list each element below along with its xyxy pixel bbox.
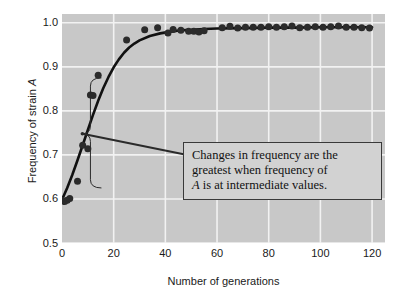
chart-canvas xyxy=(62,14,385,243)
x-tick-label: 40 xyxy=(145,247,185,259)
y-axis-title-italic: A xyxy=(26,79,38,86)
annotation-line-3: A is at intermediate values. xyxy=(192,178,374,193)
plot-area xyxy=(62,14,385,243)
x-tick-label: 60 xyxy=(197,247,237,259)
x-tick-label: 120 xyxy=(352,247,392,259)
y-axis-title-text: Frequency of strain xyxy=(26,86,38,183)
annotation-textbox: Changes in frequency are the greatest wh… xyxy=(183,142,382,200)
x-tick-label: 20 xyxy=(94,247,134,259)
x-axis-title-text: Number of generations xyxy=(168,275,280,287)
chart-figure: 0.50.60.70.80.91.0 Number of generations… xyxy=(0,0,402,302)
x-tick-label: 0 xyxy=(42,247,82,259)
x-axis-title: Number of generations xyxy=(62,275,385,287)
annotation-line-2: greatest when frequency of xyxy=(192,163,374,178)
annotation-line-1: Changes in frequency are the xyxy=(192,148,374,163)
y-axis-title: Frequency of strain A xyxy=(26,16,38,246)
gridlines xyxy=(62,14,385,243)
annotation-line-3-rest: is at intermediate values. xyxy=(200,178,327,192)
x-tick-label: 80 xyxy=(249,247,289,259)
annotation-italic-token: A xyxy=(192,178,200,192)
x-tick-label: 100 xyxy=(300,247,340,259)
